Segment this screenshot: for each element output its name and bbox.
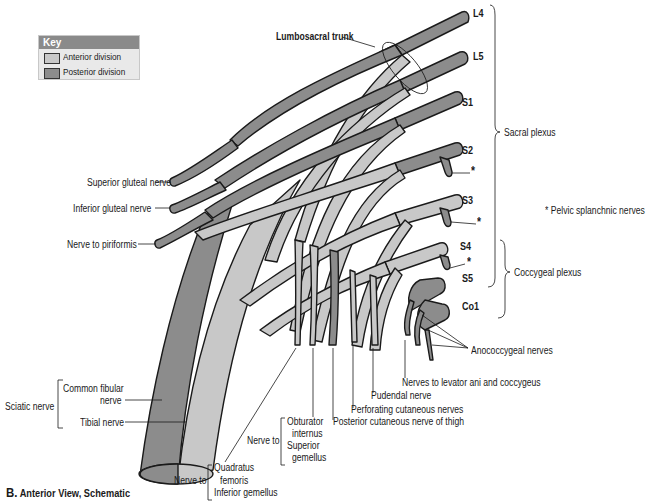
nerve-to-label-b: Nerve to <box>247 435 280 446</box>
common-fibular-label-1: Common fibular <box>63 383 124 394</box>
sacral-plexus-diagram: Key Anterior division Posterior division… <box>0 0 650 504</box>
anococcygeal-label: Anococcygeal nerves <box>471 345 553 356</box>
root-L5-shape <box>400 52 468 92</box>
nerve-to-piriformis-label: Nerve to piriformis <box>67 239 137 250</box>
perforating-cutaneous-nerve-shape <box>350 270 357 342</box>
anococcygeal-nerve-shape <box>425 330 433 360</box>
perforating-cutaneous-label: Perforating cutaneous nerves <box>351 404 463 415</box>
quadratus-label-2: femoris <box>220 475 248 486</box>
legend-label-posterior: Posterior division <box>63 66 125 78</box>
inferior-gluteal-label: Inferior gluteal nerve <box>73 203 151 214</box>
figure-caption: B. Anterior View, Schematic <box>6 485 130 500</box>
coccygeal-plexus-label: Coccygeal plexus <box>514 267 581 278</box>
root-label-L4: L4 <box>473 8 484 19</box>
root-label-Co1: Co1 <box>462 301 479 312</box>
legend-label-anterior: Anterior division <box>63 51 121 63</box>
legend-key: Key Anterior division Posterior division <box>38 35 140 80</box>
legend-title: Key <box>39 36 139 49</box>
sacral-plexus-label: Sacral plexus <box>504 127 556 138</box>
root-label-L5: L5 <box>473 51 484 62</box>
common-fibular-label-2: nerve <box>100 395 122 406</box>
asterisk-s2: * <box>471 166 475 177</box>
root-label-S3: S3 <box>462 195 473 206</box>
nerve-to-b-bracket <box>281 418 285 465</box>
legend-item-posterior: Posterior division <box>39 66 139 79</box>
pudendal-label: Pudendal nerve <box>371 390 431 401</box>
root-L4-shape <box>395 12 469 55</box>
anterior-swatch <box>44 53 60 64</box>
coccygeal-plexus-brace <box>498 240 510 318</box>
asterisk-s3: * <box>477 217 481 228</box>
root-label-S1: S1 <box>462 97 473 108</box>
root-label-S4: S4 <box>460 241 471 252</box>
obturator-label-1: Obturator <box>287 416 323 427</box>
levator-ani-label: Nerves to levator ani and coccygeus <box>402 377 541 388</box>
asterisk-s4: * <box>467 257 471 268</box>
posterior-swatch <box>44 68 60 79</box>
posterior-cutaneous-nerve-shape <box>329 250 338 345</box>
root-S2-shape <box>395 143 463 175</box>
obturator-label-4: gemellus <box>292 452 326 463</box>
obturator-label-3: Superior <box>287 440 320 451</box>
obturator-label-2: internus <box>292 428 323 439</box>
caption-text: Anterior View, Schematic <box>20 487 130 499</box>
splanchnic-leader-s3 <box>451 222 476 224</box>
quadratus-label-1: Quadratus <box>214 462 254 473</box>
pudendal-nerve-shape <box>370 275 378 345</box>
tibial-nerve-label: Tibial nerve <box>80 417 124 428</box>
sciatic-nerve-label: Sciatic nerve <box>5 401 54 412</box>
posterior-cutaneous-label: Posterior cutaneous nerve of thigh <box>333 416 464 427</box>
caption-letter: B. <box>6 485 17 500</box>
root-label-S2: S2 <box>462 145 473 156</box>
nerve-to-label-a: Nerve to <box>174 475 207 486</box>
splanchnic-leader-s4 <box>450 264 465 268</box>
lumbosacral-trunk-label: Lumbosacral trunk <box>276 31 353 42</box>
pelvic-splanchnic-label: * Pelvic splanchnic nerves <box>545 205 645 216</box>
legend-item-anterior: Anterior division <box>39 51 139 64</box>
sacral-plexus-brace <box>488 5 500 287</box>
quadratus-label-3: Inferior gemellus <box>214 487 278 498</box>
nerve-to-quadratus-femoris-shape <box>295 240 303 345</box>
root-label-S5: S5 <box>462 273 473 284</box>
superior-gluteal-label: Superior gluteal nerve <box>87 177 171 188</box>
